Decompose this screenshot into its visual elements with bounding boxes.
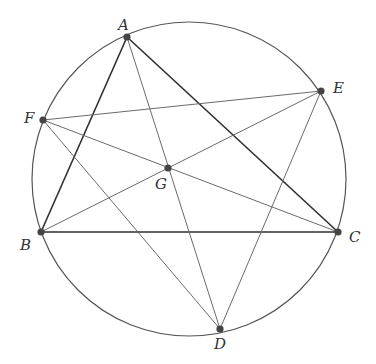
segments bbox=[41, 37, 338, 329]
label-d: D bbox=[213, 335, 226, 353]
point-a bbox=[123, 33, 130, 40]
segment-ed bbox=[220, 91, 321, 329]
label-c: C bbox=[349, 228, 361, 246]
label-f: F bbox=[23, 109, 35, 127]
point-e bbox=[317, 87, 324, 94]
label-a: A bbox=[116, 16, 129, 34]
geometry-diagram: ABCDEFG bbox=[0, 0, 376, 364]
segment-fe bbox=[43, 91, 321, 120]
label-e: E bbox=[332, 79, 344, 97]
segment-fc bbox=[43, 120, 338, 232]
point-c bbox=[334, 228, 341, 235]
segment-fd bbox=[43, 120, 220, 329]
label-g: G bbox=[155, 175, 167, 193]
circumcircle bbox=[32, 22, 346, 336]
circle-outline bbox=[32, 22, 346, 336]
point-d bbox=[216, 325, 223, 332]
point-labels: ABCDEFG bbox=[19, 16, 361, 353]
segment-ca bbox=[127, 37, 338, 232]
point-g bbox=[164, 164, 171, 171]
point-b bbox=[37, 228, 44, 235]
points bbox=[37, 33, 341, 332]
point-f bbox=[39, 116, 46, 123]
segment-be bbox=[41, 91, 321, 232]
label-b: B bbox=[19, 236, 31, 254]
segment-ab bbox=[41, 37, 127, 232]
